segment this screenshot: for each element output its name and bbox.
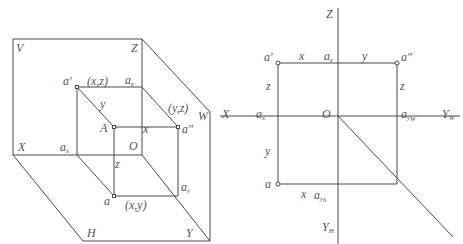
label-a: a (104, 194, 110, 208)
label-y-dist: y (99, 97, 106, 111)
label-a-prime: a′ (63, 74, 72, 88)
label-x-dist: x (142, 122, 149, 136)
label-y-top: y (361, 49, 368, 63)
label-a-prime: a′ (264, 50, 273, 64)
label-x-top: x (298, 49, 305, 63)
point-a (276, 182, 280, 186)
label-a-double-prime: a″ (401, 50, 413, 64)
label-a: a (265, 177, 271, 191)
point-a-double-prime (395, 61, 399, 65)
label-ayw: ayW (401, 107, 417, 123)
label-z-left: z (265, 79, 271, 93)
label-ax: ax (60, 140, 70, 155)
label-ayh: ayh (314, 188, 327, 204)
label-x-bottom: x (300, 187, 307, 201)
proj-ax-a (77, 155, 114, 196)
proj-aprime-A (77, 87, 114, 127)
label-origin: O (322, 107, 331, 121)
point-a (113, 195, 116, 198)
label-y-left: y (264, 144, 271, 158)
label-yw-axis: YW (442, 107, 456, 122)
label-x-axis: X (221, 107, 230, 121)
label-z-right: z (399, 79, 405, 93)
projection-figure: V Z a′ (x,z) az y (y,z) W A x a″ X ax O … (0, 0, 463, 244)
label-a-double-prime: a″ (182, 122, 194, 136)
label-v-plane: V (16, 41, 25, 55)
label-yh-axis: YH (322, 220, 335, 235)
h-plane-left-edge (13, 155, 83, 241)
y-axis-line (142, 155, 210, 241)
label-xz: (x,z) (87, 74, 108, 88)
label-ay: ay (181, 180, 191, 195)
point-A (113, 126, 116, 129)
label-az: az (125, 73, 134, 88)
diagonal-45 (338, 116, 453, 237)
point-a-prime (276, 61, 280, 65)
label-az: az (324, 49, 333, 64)
label-z-axis: Z (326, 7, 333, 21)
point-a-prime (76, 86, 79, 89)
label-A: A (99, 121, 108, 135)
left-axonometric-diagram: V Z a′ (x,z) az y (y,z) W A x a″ X ax O … (13, 39, 210, 241)
label-origin: O (129, 139, 138, 153)
label-z-axis: Z (131, 41, 138, 55)
label-ax: ax (256, 107, 266, 122)
label-xy: (x,y) (125, 198, 147, 212)
label-x-axis: X (17, 140, 26, 154)
label-yz: (y,z) (168, 101, 188, 115)
label-h-plane: H (86, 226, 97, 240)
point-a-double-prime (177, 126, 180, 129)
label-y-axis: Y (186, 226, 194, 240)
label-z-dist: z (114, 157, 120, 171)
right-orthographic-diagram: Z a′ x az y a″ z z X ax O ayW YW y a x a… (220, 7, 460, 244)
label-w-plane: W (198, 109, 209, 123)
